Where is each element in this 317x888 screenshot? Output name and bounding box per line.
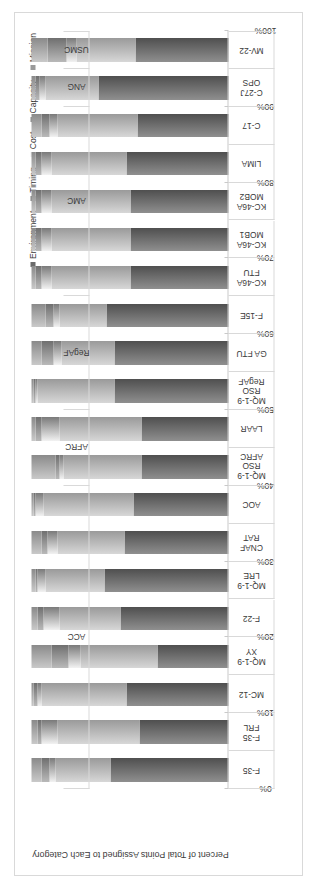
category-cell-wrap: GA FTU	[228, 334, 300, 372]
bar-segment	[35, 76, 39, 99]
bar-segment	[31, 720, 37, 743]
bar-stack	[31, 758, 228, 781]
category-cell: LIMA	[228, 145, 274, 183]
axis-tick	[224, 485, 228, 486]
bar-segment	[35, 493, 43, 516]
category-cell-wrap: MV-22	[228, 31, 300, 69]
bar-segment	[124, 531, 228, 554]
bar-segment	[106, 304, 228, 327]
category-label: KC-46AMOB2	[236, 191, 265, 210]
bar-segment	[35, 190, 41, 213]
bar-segment	[41, 758, 49, 781]
group-label: RegAF	[62, 348, 88, 358]
bar-stack	[31, 455, 228, 478]
category-label: C-27JOPS	[239, 78, 261, 97]
bar-segment	[130, 190, 229, 213]
bar-segment	[37, 569, 45, 592]
group-label: ANG	[66, 82, 84, 92]
category-cell-wrap: KC-46AMOB2	[228, 183, 300, 221]
category-cell-wrap: KC-46AMOB1	[228, 221, 300, 259]
bar-stack	[31, 190, 228, 213]
category-label: KC-46AMOB1	[236, 229, 265, 248]
category-label: MQ-1-9RSORegAF	[236, 376, 264, 405]
axis-tick	[224, 636, 228, 637]
category-cell: MQ-1-9RSORegAF	[228, 372, 274, 410]
category-cell: GA FTU	[228, 334, 274, 372]
value-axis-title-text: Percent of Total Points Assigned to Each…	[31, 850, 227, 860]
category-cell-wrap: MQ-1-9LRE	[228, 562, 300, 600]
axis-tick	[224, 561, 228, 562]
axis-tick	[224, 333, 228, 334]
bar-segment	[41, 152, 51, 175]
rotated-chart-canvas: EnvironmentTimingCostCapacityMission 0%1…	[17, 15, 300, 873]
bar-segment	[130, 228, 229, 251]
bar-series-area	[31, 31, 228, 789]
category-label: LAAR	[240, 424, 262, 434]
category-label: GA FTU	[235, 348, 265, 358]
category-cell-wrap: F-15E	[228, 296, 300, 334]
category-label: MV-22	[238, 45, 262, 55]
category-label: F-35FRL	[242, 722, 259, 741]
bar-segment	[31, 493, 33, 516]
category-label: F-22	[242, 613, 259, 623]
bar-segment	[139, 720, 228, 743]
category-label: CNAFRAT	[239, 533, 262, 552]
bar-segment	[33, 683, 37, 706]
bar-segment	[133, 493, 228, 516]
category-cell: F-22	[228, 600, 274, 638]
bar-segment	[55, 455, 59, 478]
bar-segment	[135, 38, 228, 61]
bar-segment	[31, 76, 35, 99]
bar-segment	[31, 417, 35, 440]
category-label: MC-12	[238, 689, 263, 699]
bar-stack	[31, 645, 228, 668]
bar-segment	[31, 607, 37, 630]
bar-segment	[31, 758, 41, 781]
bar-segment	[98, 76, 228, 99]
bar-segment	[43, 607, 59, 630]
category-cell: KC-46AMOB1	[228, 221, 274, 259]
category-cell-wrap: LIMA	[228, 145, 300, 183]
bar-segment	[41, 341, 53, 364]
bar-segment	[31, 683, 33, 706]
category-label: MQ-1-9XY	[236, 646, 264, 665]
bar-segment	[126, 152, 228, 175]
bar-stack	[31, 76, 228, 99]
group-label: AFRC	[64, 442, 87, 452]
category-label: C-17	[241, 120, 259, 130]
group-cell: AMC	[63, 107, 89, 297]
bar-segment	[37, 720, 41, 743]
bar-segment	[49, 114, 57, 137]
category-cell: KC-46AFTU	[228, 258, 274, 296]
bar-segment	[53, 304, 59, 327]
category-cell-wrap: KC-46AFTU	[228, 258, 300, 296]
category-label: MQ-1-9LRE	[236, 570, 264, 589]
bar-segment	[137, 114, 228, 137]
category-cell: C-17	[228, 107, 274, 145]
bar-segment	[31, 379, 33, 402]
axis-tick	[224, 788, 228, 789]
category-cell: MQ-1-9LRE	[228, 562, 274, 600]
group-cell: USMC	[63, 31, 89, 69]
category-cell-wrap: F-35	[228, 751, 300, 789]
category-label: MQ-1-9RSOAFRC	[236, 452, 264, 481]
group-cell: ACC	[63, 486, 89, 789]
bar-segment	[35, 266, 41, 289]
bar-segment	[41, 720, 57, 743]
bar-segment	[37, 683, 41, 706]
bar-segment	[31, 38, 47, 61]
group-cell: RegAF	[63, 296, 89, 410]
category-cell-wrap: MQ-1-9XY	[228, 637, 300, 675]
bar-segment	[130, 266, 229, 289]
chart-root: EnvironmentTimingCostCapacityMission 0%1…	[0, 0, 317, 888]
axis-tick	[224, 409, 228, 410]
category-label: AOC	[241, 499, 259, 509]
bar-stack	[31, 266, 228, 289]
axis-tick	[224, 712, 228, 713]
bar-stack	[31, 569, 228, 592]
category-cell-wrap: F-35FRL	[228, 713, 300, 751]
bar-segment	[31, 266, 35, 289]
bar-stack	[31, 304, 228, 327]
bar-stack	[31, 607, 228, 630]
bar-stack	[31, 417, 228, 440]
